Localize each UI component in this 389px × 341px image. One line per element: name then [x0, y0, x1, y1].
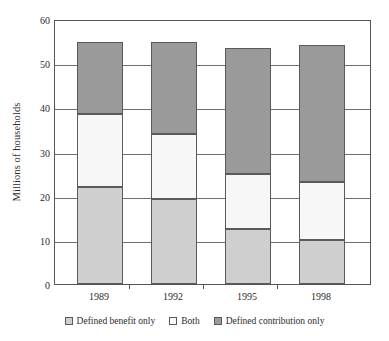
bar-segment-1995-defined-contribution-only[interactable]	[225, 48, 271, 174]
legend-item-defined-contribution-only[interactable]: Defined contribution only	[214, 316, 325, 326]
chart-legend: Defined benefit only Both Defined contri…	[0, 316, 389, 326]
x-tick-label-1998: 1998	[291, 291, 351, 302]
bar-segment-1992-defined-contribution-only[interactable]	[151, 42, 197, 134]
stacked-bar-chart: Millions of households 60 50 40 30 20 10…	[0, 0, 389, 341]
legend-item-both[interactable]: Both	[169, 316, 199, 326]
legend-swatch-icon-defined-benefit-only	[65, 317, 73, 325]
legend-swatch-icon-both	[169, 317, 177, 325]
y-tick-label-20: 20	[10, 191, 50, 202]
y-tick-label-60: 60	[10, 15, 50, 26]
legend-swatch-icon-defined-contribution-only	[214, 317, 222, 325]
legend-label-defined-contribution-only: Defined contribution only	[226, 316, 325, 326]
bar-segment-1995-defined-benefit-only[interactable]	[225, 229, 271, 284]
x-tick-mark-1	[129, 285, 130, 289]
x-tick-mark-2	[203, 285, 204, 289]
y-tick-label-0: 0	[10, 280, 50, 291]
legend-label-defined-benefit-only: Defined benefit only	[77, 316, 156, 326]
bar-segment-1989-defined-benefit-only[interactable]	[77, 187, 123, 284]
bar-segment-1989-defined-contribution-only[interactable]	[77, 42, 123, 114]
x-tick-label-1995: 1995	[217, 291, 277, 302]
y-tick-label-40: 40	[10, 103, 50, 114]
legend-label-both: Both	[181, 316, 199, 326]
y-axis-tick-labels: 60 50 40 30 20 10 0	[6, 20, 50, 285]
y-tick-label-30: 30	[10, 147, 50, 158]
bar-segment-1992-defined-benefit-only[interactable]	[151, 199, 197, 284]
bar-segment-1998-defined-benefit-only[interactable]	[299, 240, 345, 284]
bar-segment-1995-both[interactable]	[225, 174, 271, 229]
bar-segment-1998-defined-contribution-only[interactable]	[299, 45, 345, 182]
bar-segment-1989-both[interactable]	[77, 114, 123, 187]
legend-item-defined-benefit-only[interactable]: Defined benefit only	[65, 316, 156, 326]
x-tick-label-1992: 1992	[143, 291, 203, 302]
y-tick-label-10: 10	[10, 235, 50, 246]
x-tick-mark-3	[277, 285, 278, 289]
bar-segment-1998-both[interactable]	[299, 182, 345, 240]
y-tick-label-50: 50	[10, 59, 50, 70]
bar-segment-1992-both[interactable]	[151, 134, 197, 199]
x-tick-label-1989: 1989	[69, 291, 129, 302]
plot-area	[54, 20, 371, 285]
